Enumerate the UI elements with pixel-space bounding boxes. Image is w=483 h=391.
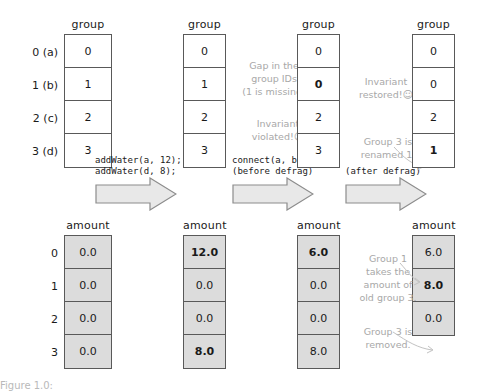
amount-table-state-0: amount 0.0 0.0 0.0 0.0 — [64, 219, 112, 369]
invariant-violated-text: Invariant violated! — [252, 118, 299, 142]
group-cell: 0 — [298, 68, 339, 101]
arrow-shape — [95, 177, 177, 211]
group-table-header: group — [183, 18, 226, 34]
amount-cell: 8.0 — [184, 335, 225, 368]
group-cell: 1 — [184, 68, 225, 101]
amount-cell: 0.0 — [65, 335, 111, 368]
row-label: 0 — [14, 237, 58, 270]
figure-caption: Figure 1.0: — [0, 380, 483, 391]
group-cells: 0 0 2 3 — [297, 34, 340, 168]
row-label: 0 (a) — [6, 36, 58, 69]
row-label: 2 (c) — [6, 102, 58, 135]
arrow-shape — [232, 177, 314, 211]
amount-cell: 8.0 — [298, 335, 339, 368]
group-table-state-1: group 0 1 2 3 — [183, 18, 226, 168]
row-label: 3 — [14, 336, 58, 369]
amount-cell: 6.0 — [298, 236, 339, 269]
group-cell: 1 — [413, 134, 454, 167]
group-table-header: group — [412, 18, 455, 34]
group-cell: 3 — [298, 134, 339, 167]
group-table-state-3: group 0 0 2 1 — [412, 18, 455, 168]
takes-amount-leader — [398, 262, 422, 288]
amount-table-header: amount — [183, 219, 226, 235]
group-cell: 2 — [413, 101, 454, 134]
row-label: 3 (d) — [6, 135, 58, 168]
transition-arrow-3: (after defrag) — [345, 166, 427, 211]
removed-note-leader — [392, 330, 436, 356]
row-label: 1 (b) — [6, 69, 58, 102]
amount-cells: 12.0 0.0 0.0 8.0 — [183, 235, 226, 369]
group-table-state-0: group 0 1 2 3 — [64, 18, 112, 168]
amount-cells: 6.0 0.0 0.0 8.0 — [297, 235, 340, 369]
group-row-labels-state-0: 0 (a) 1 (b) 2 (c) 3 (d) — [6, 36, 58, 168]
amount-cells: 0.0 0.0 0.0 0.0 — [64, 235, 112, 369]
amount-cell: 0.0 — [65, 302, 111, 335]
group-cell: 0 — [298, 35, 339, 68]
group-cell: 2 — [65, 101, 111, 134]
group-cell: 0 — [184, 35, 225, 68]
row-label: 2 — [14, 303, 58, 336]
arrow-shape — [345, 177, 427, 211]
amount-cell: 12.0 — [184, 236, 225, 269]
amount-cell: 0.0 — [298, 302, 339, 335]
amount-cell: 0.0 — [65, 236, 111, 269]
group-cell: 0 — [413, 35, 454, 68]
amount-cell: 0.0 — [65, 269, 111, 302]
group-cell: 2 — [298, 101, 339, 134]
group-table-header: group — [297, 18, 340, 34]
amount-table-header: amount — [297, 219, 340, 235]
transition-arrow-1: addWater(a, 12); addWater(d, 8); — [95, 155, 182, 211]
group-cell: 1 — [65, 68, 111, 101]
amount-cell: 0.0 — [298, 269, 339, 302]
group-table-header: group — [64, 18, 112, 34]
arrow-1-label: addWater(a, 12); addWater(d, 8); — [95, 155, 182, 177]
amount-table-state-1: amount 12.0 0.0 0.0 8.0 — [183, 219, 226, 369]
group-table-state-2: group 0 0 2 3 — [297, 18, 340, 168]
row-label: 1 — [14, 270, 58, 303]
amount-table-state-2: amount 6.0 0.0 0.0 8.0 — [297, 219, 340, 369]
amount-table-header: amount — [64, 219, 112, 235]
group-cells: 0 1 2 3 — [64, 34, 112, 168]
amount-table-header: amount — [412, 219, 455, 235]
amount-cell: 0.0 — [184, 269, 225, 302]
group-cell: 0 — [65, 35, 111, 68]
amount-cell: 0.0 — [184, 302, 225, 335]
group-cell: 2 — [184, 101, 225, 134]
group-cells: 0 0 2 1 — [412, 34, 455, 168]
group-cells: 0 1 2 3 — [183, 34, 226, 168]
group-cell: 0 — [413, 68, 454, 101]
invariant-restored-text: Invariant restored! — [359, 76, 407, 100]
amount-row-labels-state-0: 0 1 2 3 — [14, 237, 58, 369]
group-cell: 3 — [184, 134, 225, 167]
